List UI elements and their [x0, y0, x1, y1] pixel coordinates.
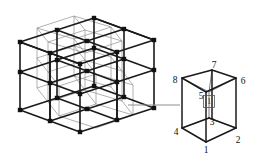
node-label-6: 6	[241, 76, 246, 86]
node-label-3: 3	[210, 117, 215, 127]
mesh-diagram-svg: 1 1 2 3 4 5 6 7 8	[0, 0, 260, 162]
node-label-2: 2	[236, 135, 241, 145]
node-label-4: 4	[174, 127, 179, 137]
node-label-7: 7	[212, 60, 217, 70]
figure-container: 1 1 2 3 4 5 6 7 8	[0, 0, 260, 162]
element-number-label: 1	[207, 97, 211, 106]
node-label-1: 1	[204, 145, 209, 155]
detail-element-group: 1 1 2 3 4 5 6 7 8	[173, 60, 246, 155]
node-label-5: 5	[199, 91, 204, 101]
hexahedral-mesh-group	[18, 16, 156, 134]
node-label-8: 8	[173, 75, 178, 85]
